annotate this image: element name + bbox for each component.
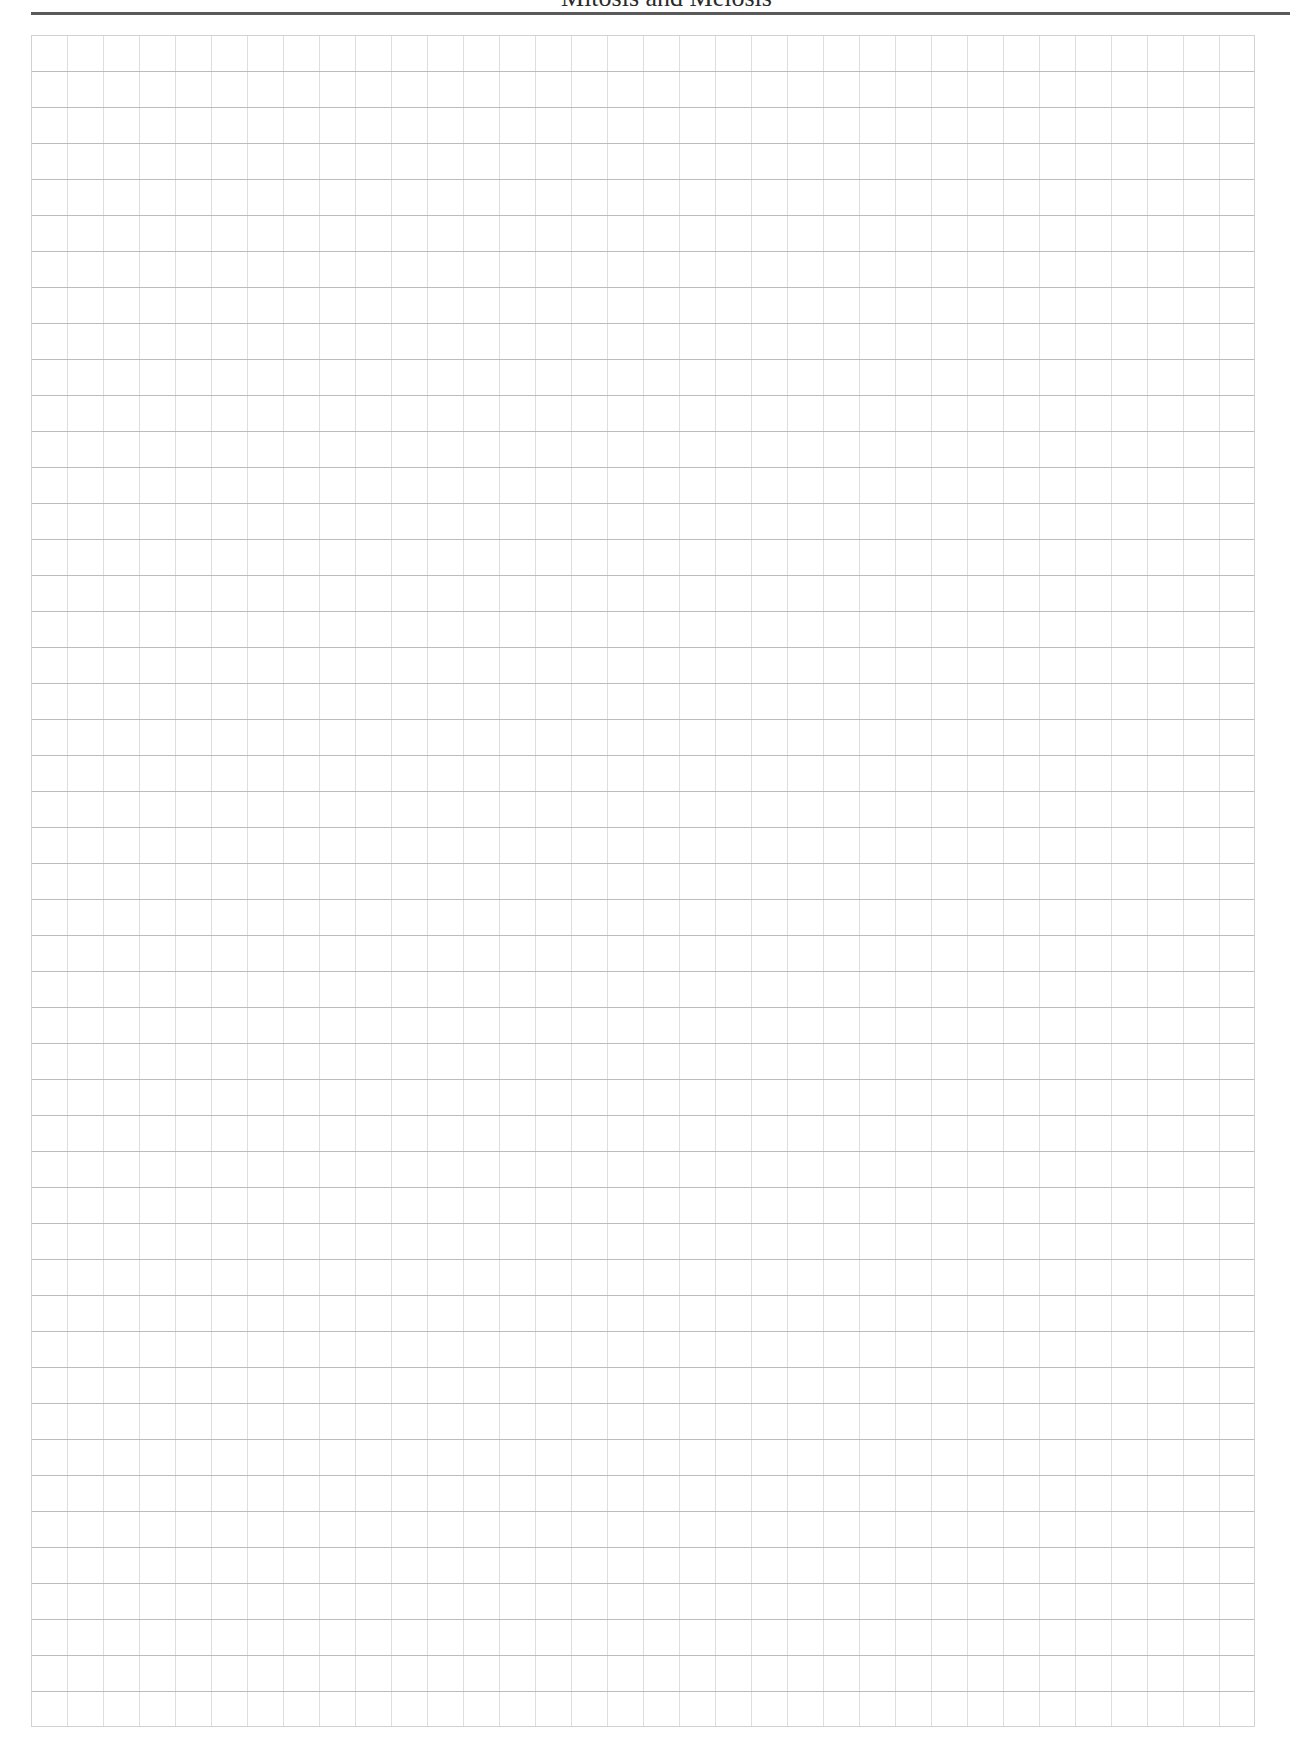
graph-paper-grid	[31, 35, 1255, 1727]
running-head-title: Mitosis and Meiosis	[20, 0, 1293, 10]
header-rule-divider	[31, 12, 1290, 15]
